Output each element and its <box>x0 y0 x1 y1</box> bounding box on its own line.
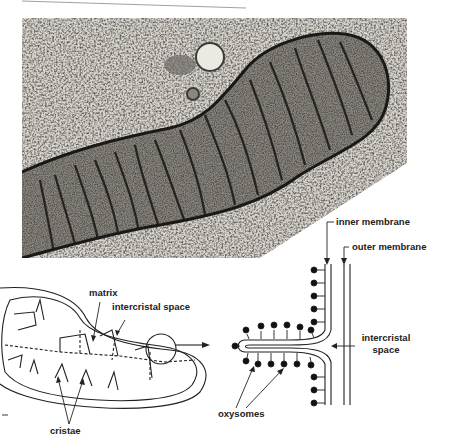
label-intercristal-line2: space <box>354 345 418 355</box>
mitochondrion-figure: matrix intercristal space cristae inner … <box>0 0 451 448</box>
border-line <box>22 1 246 8</box>
label-inner-membrane: inner membrane <box>336 217 410 227</box>
vesicle <box>196 43 224 71</box>
arrow-head-icon <box>202 342 210 348</box>
label-intercristal-space-cutaway: intercristal space <box>112 302 190 312</box>
oxysome <box>311 267 325 273</box>
label-intercristal-space-detail: intercristal space <box>354 333 418 354</box>
label-oxysomes: oxysomes <box>218 409 264 419</box>
label-cristae: cristae <box>50 426 81 436</box>
label-matrix: matrix <box>89 288 118 298</box>
membrane-detail <box>238 264 350 405</box>
label-outer-membrane: outer membrane <box>352 242 426 252</box>
label-intercristal-line1: intercristal <box>354 333 418 343</box>
